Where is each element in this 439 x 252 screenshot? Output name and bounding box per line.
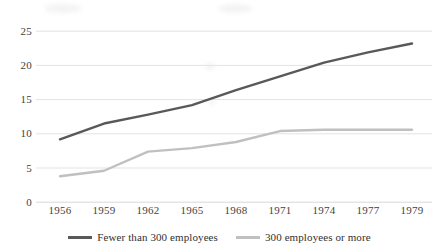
legend-item-300-or-more[interactable]: 300 employees or more — [236, 231, 371, 243]
x-tick-label: 1971 — [258, 204, 302, 216]
legend-item-label: Fewer than 300 employees — [97, 231, 218, 243]
y-tick-label: 25 — [6, 26, 32, 37]
y-tick-label: 20 — [6, 60, 32, 71]
y-tick-label: 5 — [6, 163, 32, 174]
x-tick-label: 1965 — [170, 204, 214, 216]
x-tick-label: 1962 — [126, 204, 170, 216]
y-tick-label: 15 — [6, 94, 32, 105]
chart-legend: Fewer than 300 employees 300 employees o… — [0, 228, 439, 246]
x-tick-label: 1959 — [82, 204, 126, 216]
x-tick-label: 1956 — [38, 204, 82, 216]
gridlines — [36, 31, 432, 202]
x-tick-label: 1979 — [390, 204, 434, 216]
legend-item-fewer-than-300[interactable]: Fewer than 300 employees — [68, 231, 218, 243]
y-tick-label: 10 — [6, 128, 32, 139]
x-tick-label: 1974 — [302, 204, 346, 216]
legend-item-label: 300 employees or more — [265, 231, 371, 243]
x-tick-label: 1977 — [346, 204, 390, 216]
series-line-300-or-more — [60, 130, 412, 177]
series-line-fewer-than-300 — [60, 44, 412, 140]
line-chart: 25 20 15 10 5 0 1956 1959 1962 1965 1968… — [0, 0, 439, 252]
legend-line-swatch-icon — [236, 236, 260, 239]
x-tick-label: 1968 — [214, 204, 258, 216]
legend-line-swatch-icon — [68, 236, 92, 239]
x-axis: 1956 1959 1962 1965 1968 1971 1974 1977 … — [0, 204, 439, 220]
